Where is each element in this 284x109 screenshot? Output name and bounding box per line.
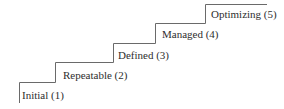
step-label-optimizing: Optimizing (5) [211, 9, 277, 20]
step-label-managed: Managed (4) [162, 29, 219, 40]
step-label-initial: Initial (1) [22, 90, 64, 101]
step-label-repeatable: Repeatable (2) [63, 70, 127, 81]
step-label-defined: Defined (3) [118, 50, 169, 61]
maturity-staircase-diagram: Initial (1) Repeatable (2) Defined (3) M… [0, 0, 284, 109]
